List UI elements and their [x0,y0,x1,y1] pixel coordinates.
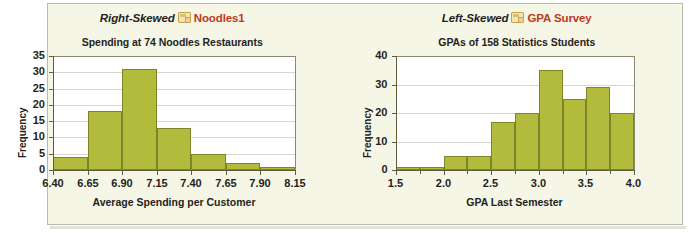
plot-frame-right [634,56,635,170]
x-tick-mark [539,171,540,175]
y-tick-mark [49,89,53,90]
figure-page: Right-SkewedNoodles1 Spending at 74 Nood… [0,0,689,233]
histogram-bar [586,87,610,170]
x-axis-label: GPA Last Semester [396,196,634,208]
histogram-bar [122,69,157,170]
y-tick-label: 30 [354,78,388,90]
x-tick-mark [586,171,587,175]
x-minor-tick-mark [515,171,516,174]
histogram-bar [157,128,191,170]
chart-block-noodles: Right-SkewedNoodles1 Spending at 74 Nood… [0,0,345,233]
y-tick-label: 0 [354,163,388,175]
y-tick-label: 40 [354,49,388,61]
x-tick-mark [157,171,158,175]
plot-noodles: 051015202530356.406.656.907.157.407.657.… [0,0,345,233]
x-tick-label: 3.5 [564,177,608,189]
histogram-bar [515,113,539,170]
x-tick-mark [53,171,54,175]
histogram-bar [88,111,122,170]
plot-frame-right [295,56,296,170]
x-minor-tick-mark [467,171,468,174]
plot-frame-top [396,56,634,57]
x-axis-label: Average Spending per Customer [53,196,295,208]
y-tick-mark [49,56,53,57]
chart-block-gpa: Left-SkewedGPA Survey GPAs of 158 Statis… [345,0,689,233]
y-tick-mark [49,72,53,73]
y-tick-label: 0 [11,163,45,175]
gridline [396,85,634,86]
histogram-bar [491,122,515,170]
x-tick-mark [295,171,296,175]
gridline [53,72,295,73]
y-axis-line [53,56,54,171]
y-tick-mark [49,121,53,122]
y-axis-line [396,56,397,171]
y-tick-mark [392,113,396,114]
x-tick-mark [444,171,445,175]
x-minor-tick-mark [420,171,421,174]
histogram-bar [53,157,88,170]
y-tick-mark [49,105,53,106]
y-tick-mark [49,137,53,138]
histogram-bar [226,163,260,170]
y-tick-mark [392,142,396,143]
y-tick-label: 30 [11,65,45,77]
histogram-bar [444,156,467,170]
x-tick-label: 4.0 [612,177,656,189]
x-tick-label: 3.0 [517,177,561,189]
y-axis-label: Frequency [362,107,373,158]
histogram-bar [191,154,226,170]
y-tick-mark [49,154,53,155]
gridline [53,89,295,90]
x-tick-label: 1.5 [374,177,418,189]
y-tick-label: 35 [11,49,45,61]
histogram-bar [467,156,491,170]
x-tick-mark [122,171,123,175]
x-tick-mark [634,171,635,175]
charts-row: Right-SkewedNoodles1 Spending at 74 Nood… [0,0,689,233]
x-minor-tick-mark [610,171,611,174]
plot-gpa: 0102030401.52.02.53.03.54.0GPA Last Seme… [345,0,689,233]
x-minor-tick-mark [563,171,564,174]
histogram-bar [539,70,563,170]
plot-frame-top [53,56,295,57]
x-tick-mark [396,171,397,175]
y-axis-label: Frequency [17,107,28,158]
histogram-bar [610,113,634,170]
histogram-bar [563,99,586,170]
x-tick-label: 8.15 [273,177,317,189]
x-tick-label: 2.0 [422,177,466,189]
gridline [53,105,295,106]
y-tick-mark [392,56,396,57]
y-tick-label: 25 [11,82,45,94]
x-tick-mark [491,171,492,175]
y-tick-mark [392,85,396,86]
x-tick-mark [260,171,261,175]
x-tick-mark [226,171,227,175]
x-tick-mark [191,171,192,175]
x-tick-mark [88,171,89,175]
x-tick-label: 2.5 [469,177,513,189]
